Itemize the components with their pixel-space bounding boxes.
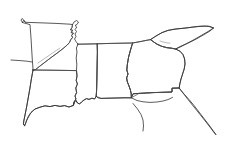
border-tennessee-south	[78, 40, 151, 45]
border-missouri-bootheel	[73, 21, 79, 45]
border-mississippi-river	[33, 25, 73, 70]
map-outline-svg	[0, 0, 228, 147]
state-outline-florida-panhandle	[131, 88, 216, 135]
coastline-florida-west	[133, 104, 144, 132]
coastline-florida-east	[179, 88, 215, 135]
map-canvas	[0, 0, 228, 147]
border-mississippi-alabama	[96, 44, 97, 97]
coastline-atlantic-south-carolina	[176, 28, 214, 88]
state-outline-mississippi	[73, 44, 97, 106]
faint-mark-south-carolina	[160, 41, 170, 43]
faint-mark-arkansas	[38, 48, 60, 63]
border-alabama-georgia	[127, 43, 133, 98]
map-edge-stub-west	[11, 60, 32, 62]
border-georgia-south-carolina	[151, 40, 176, 49]
coastline-gulf-alabama-florida	[96, 96, 172, 102]
border-south-carolina-north	[151, 26, 214, 39]
coastline-gulf-louisiana	[25, 96, 97, 125]
state-outline-arkansas	[23, 21, 74, 71]
